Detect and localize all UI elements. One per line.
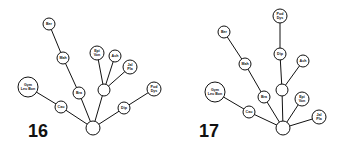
internal-node bbox=[98, 84, 110, 96]
node-cau: Cau bbox=[55, 101, 67, 113]
node-label: Cau bbox=[246, 110, 253, 114]
node-pod: PodDys bbox=[273, 9, 287, 23]
node-label: Mah bbox=[59, 56, 66, 60]
node-label: Cau bbox=[58, 105, 65, 109]
node-jal: JalPla bbox=[312, 110, 326, 124]
node-ach: Ach bbox=[109, 50, 121, 62]
tree-diagram-17: PodDysDipAchBerMahGymLeu BonBraEpiVonCau… bbox=[199, 9, 326, 141]
node-label: Ach bbox=[300, 59, 307, 63]
node-mah: Mah bbox=[57, 52, 69, 64]
node-dip: Dip bbox=[274, 48, 286, 60]
node-cau: Cau bbox=[243, 106, 255, 118]
node-gym: GymLeu Bon bbox=[205, 82, 225, 102]
root-node bbox=[276, 121, 290, 135]
node-label: Ber bbox=[46, 22, 53, 26]
root-node bbox=[86, 121, 100, 135]
node-label: Bra bbox=[261, 95, 268, 99]
node-gym: GymLeu Bon bbox=[18, 77, 38, 97]
node-label: Mah bbox=[241, 62, 248, 66]
node-ber: Ber bbox=[43, 18, 55, 30]
node-label: Leu Bon bbox=[208, 92, 222, 96]
phylogenetic-trees-canvas: BerMahBraGymLeu BonCauEpiVonAchJalPlaDip… bbox=[0, 0, 344, 147]
node-dip: Dip bbox=[118, 102, 130, 114]
figure-number: 17 bbox=[199, 121, 219, 141]
node-epi: EpiVon bbox=[90, 46, 104, 60]
node-label: Von bbox=[299, 99, 306, 103]
tree-diagram-16: BerMahBraGymLeu BonCauEpiVonAchJalPlaDip… bbox=[18, 18, 161, 141]
node-label: Ach bbox=[112, 54, 119, 58]
figure-number: 16 bbox=[28, 121, 48, 141]
node-label: Ber bbox=[221, 30, 228, 34]
node-label: Dip bbox=[121, 106, 128, 110]
node-bra: Bra bbox=[73, 87, 85, 99]
node-jal: JalPla bbox=[123, 60, 137, 74]
node-ber: Ber bbox=[218, 26, 230, 38]
node-label: Dys bbox=[151, 89, 158, 93]
node-label: Dys bbox=[277, 16, 284, 20]
node-mah: Mah bbox=[239, 58, 251, 70]
node-label: Von bbox=[94, 53, 101, 57]
node-label: Leu Bon bbox=[21, 87, 35, 91]
node-label: Dip bbox=[277, 52, 284, 56]
node-epi: EpiVon bbox=[295, 92, 309, 106]
internal-node bbox=[276, 84, 288, 96]
node-bra: Bra bbox=[258, 91, 270, 103]
node-ach: Ach bbox=[297, 55, 309, 67]
node-pod: PodDys bbox=[147, 82, 161, 96]
node-label: Bra bbox=[76, 91, 83, 95]
